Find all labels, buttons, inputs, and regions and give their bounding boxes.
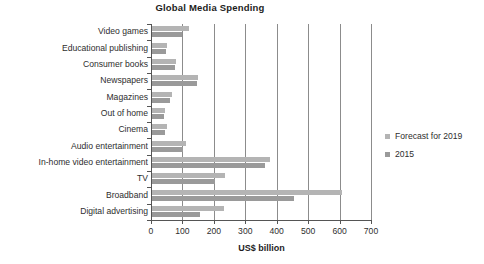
bar bbox=[152, 65, 175, 70]
bar-group bbox=[152, 24, 372, 40]
bar bbox=[152, 206, 224, 211]
value-axis-tick-label: 700 bbox=[356, 226, 386, 236]
bar bbox=[152, 179, 215, 184]
bar-group bbox=[152, 40, 372, 56]
legend-entry[interactable]: 2015 bbox=[385, 145, 484, 163]
chart-container: Global Media Spending Video gamesEducati… bbox=[0, 0, 484, 264]
value-axis-tick-500 bbox=[308, 220, 309, 224]
value-axis-tick-label: 500 bbox=[293, 226, 323, 236]
value-axis-tick-600 bbox=[340, 220, 341, 224]
bar-group bbox=[152, 155, 372, 171]
bar bbox=[152, 147, 183, 152]
bar bbox=[152, 114, 164, 119]
value-axis-tick-label: 400 bbox=[262, 226, 292, 236]
bar-group bbox=[152, 204, 372, 220]
legend-swatch-icon bbox=[385, 152, 390, 157]
bar bbox=[152, 212, 200, 217]
bar-group bbox=[152, 89, 372, 105]
legend-entry[interactable]: Forecast for 2019 bbox=[385, 127, 484, 145]
legend-label: Forecast for 2019 bbox=[395, 131, 462, 141]
value-axis-tick-label: 300 bbox=[230, 226, 260, 236]
value-axis-tick-200 bbox=[214, 220, 215, 224]
value-axis-tick-300 bbox=[245, 220, 246, 224]
value-axis-tick-400 bbox=[277, 220, 278, 224]
bar bbox=[152, 49, 166, 54]
bar bbox=[152, 108, 165, 113]
bar bbox=[152, 92, 172, 97]
bar-group bbox=[152, 122, 372, 138]
bar-group bbox=[152, 106, 372, 122]
x-axis-title: US$ billion bbox=[151, 243, 372, 253]
bar bbox=[152, 196, 294, 201]
category-axis-ticks bbox=[0, 24, 152, 221]
bar bbox=[152, 26, 189, 31]
chart-title: Global Media Spending bbox=[0, 2, 420, 13]
bar bbox=[152, 173, 225, 178]
bar bbox=[152, 163, 265, 168]
bar bbox=[152, 98, 170, 103]
legend-swatch-icon bbox=[385, 134, 390, 139]
plot-area bbox=[151, 24, 371, 220]
bar-group bbox=[152, 73, 372, 89]
bar bbox=[152, 59, 176, 64]
chart-legend: Forecast for 20192015 bbox=[385, 127, 484, 163]
value-axis-tick-label: 200 bbox=[199, 226, 229, 236]
bar bbox=[152, 130, 165, 135]
value-axis-tick-label: 600 bbox=[325, 226, 355, 236]
bar-group bbox=[152, 187, 372, 203]
bar bbox=[152, 157, 270, 162]
bar bbox=[152, 141, 186, 146]
bar-group bbox=[152, 171, 372, 187]
bar bbox=[152, 190, 342, 195]
bar bbox=[152, 81, 197, 86]
value-axis-tick-label: 100 bbox=[167, 226, 197, 236]
bar bbox=[152, 32, 182, 37]
bar-group bbox=[152, 138, 372, 154]
value-axis-tick-100 bbox=[182, 220, 183, 224]
bar bbox=[152, 75, 198, 80]
legend-label: 2015 bbox=[395, 149, 414, 159]
bar-group bbox=[152, 57, 372, 73]
value-axis-tick-label: 0 bbox=[136, 226, 166, 236]
bar bbox=[152, 43, 167, 48]
bar bbox=[152, 124, 167, 129]
value-axis-tick-700 bbox=[371, 220, 372, 224]
value-axis-tick-0 bbox=[151, 220, 152, 224]
